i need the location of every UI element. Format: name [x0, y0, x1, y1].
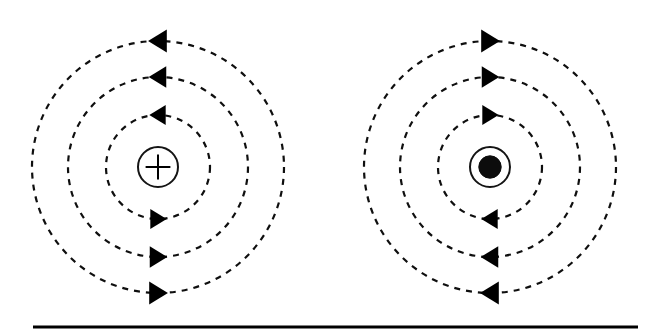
canvas-background	[0, 0, 645, 335]
magnetic-field-figure	[0, 0, 645, 335]
figure-root	[0, 0, 645, 335]
current-out-of-page-dot	[479, 156, 501, 178]
